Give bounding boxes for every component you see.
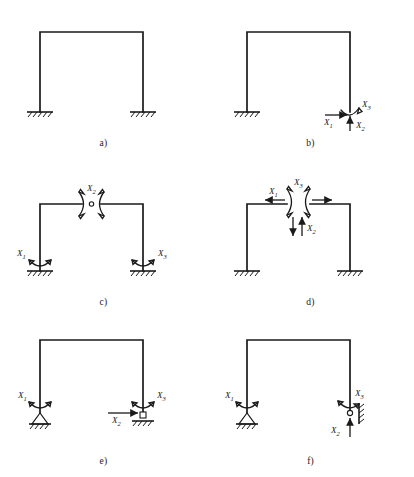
label-x3: X3 bbox=[293, 177, 304, 189]
wall-support-right bbox=[338, 401, 364, 437]
frame-outline bbox=[40, 204, 143, 271]
fixed-support-left bbox=[234, 112, 260, 117]
panel-caption-f: f) bbox=[207, 456, 414, 466]
fixed-support-right bbox=[337, 271, 363, 276]
label-x2: X2 bbox=[355, 120, 366, 132]
panel-caption-a: a) bbox=[0, 138, 207, 148]
panel-caption-c: c) bbox=[0, 297, 207, 307]
panel-d: X1 X3 X2 d) bbox=[207, 159, 414, 318]
label-x1: X1 bbox=[323, 117, 333, 129]
panel-caption-b: b) bbox=[207, 138, 414, 148]
frame-outline bbox=[40, 340, 143, 413]
label-x2: X2 bbox=[330, 425, 341, 437]
fixed-support-left bbox=[234, 271, 260, 276]
figure-root: a) bbox=[0, 0, 414, 477]
label-x2: X2 bbox=[306, 223, 317, 235]
panel-a: a) bbox=[0, 0, 207, 159]
label-x1: X1 bbox=[224, 390, 234, 402]
panel-f: X1 X3 X2 f) bbox=[207, 318, 414, 477]
panel-e: X1 X3 X2 e) bbox=[0, 318, 207, 477]
fixed-support-right bbox=[130, 112, 156, 117]
label-x2: X2 bbox=[111, 415, 122, 427]
frame-outline bbox=[40, 32, 143, 112]
frame-outline bbox=[247, 204, 350, 271]
frame-outline bbox=[247, 340, 350, 413]
panel-c: X2 X1 bbox=[0, 159, 207, 318]
panel-caption-e: e) bbox=[0, 456, 207, 466]
frame-outline bbox=[247, 32, 350, 112]
label-x2: X2 bbox=[86, 183, 97, 195]
label-x3: X3 bbox=[354, 388, 365, 400]
label-x1: X1 bbox=[17, 390, 27, 402]
fixed-support-left bbox=[27, 112, 53, 117]
panel-caption-d: d) bbox=[207, 297, 414, 307]
label-x3: X3 bbox=[156, 390, 167, 402]
label-x1: X1 bbox=[268, 186, 278, 198]
panel-b: X3 X1 X2 b) bbox=[207, 0, 414, 159]
label-x3: X3 bbox=[361, 99, 372, 111]
label-x3: X3 bbox=[157, 248, 168, 260]
label-x1: X1 bbox=[16, 248, 26, 260]
